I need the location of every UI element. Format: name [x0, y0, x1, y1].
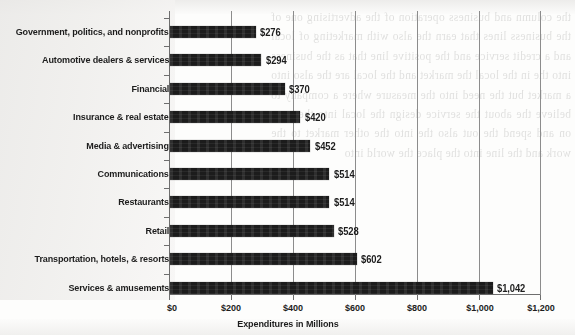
- x-tick: [417, 295, 418, 300]
- category-label: Automotive dealers & services: [42, 54, 169, 65]
- value-label: $602: [361, 254, 382, 265]
- category-label: Transportation, hotels, & resorts: [34, 253, 169, 264]
- y-tick: [164, 75, 169, 76]
- x-tick-label: $800: [407, 302, 427, 313]
- x-axis-title: Expenditures in Millions: [0, 318, 575, 329]
- x-tick-label: $400: [283, 302, 303, 313]
- bar-restaurants[interactable]: [170, 196, 329, 208]
- x-tick: [479, 295, 480, 300]
- value-label: $528: [338, 226, 359, 237]
- category-label: Media & advertising: [86, 140, 169, 151]
- value-label: $514: [334, 197, 355, 208]
- y-tick: [164, 274, 169, 275]
- x-tick-label: $1,000: [466, 302, 494, 313]
- x-tick-label: $1,200: [527, 302, 555, 313]
- value-label: $1,042: [497, 283, 525, 294]
- x-tick: [540, 295, 541, 300]
- category-label: Services & amusements: [68, 282, 169, 293]
- gridline-800: [417, 11, 418, 295]
- value-label: $452: [315, 141, 336, 152]
- y-tick: [164, 46, 169, 47]
- x-tick: [231, 295, 232, 300]
- bar-communications[interactable]: [170, 168, 329, 180]
- x-tick-label: $200: [221, 302, 241, 313]
- y-tick: [164, 18, 169, 19]
- bar-retail[interactable]: [170, 225, 334, 237]
- x-tick-label: $600: [345, 302, 365, 313]
- y-tick: [164, 217, 169, 218]
- gridline-1000: [479, 11, 480, 295]
- bar-transportation-hotels-and-resorts[interactable]: [170, 253, 357, 265]
- y-tick: [164, 188, 169, 189]
- y-tick: [164, 245, 169, 246]
- chart-page: the column and business operation of the…: [0, 0, 575, 335]
- x-tick: [169, 295, 170, 300]
- bar-media-and-advertising[interactable]: [170, 140, 310, 152]
- category-label: Financial: [131, 83, 169, 94]
- bar-automotive-dealers-and-services[interactable]: [170, 54, 261, 66]
- bar-financial[interactable]: [170, 83, 285, 95]
- bar-government-politics-and-nonprofits[interactable]: [170, 26, 256, 38]
- x-tick: [293, 295, 294, 300]
- bar-services-and-amusements[interactable]: [170, 282, 493, 294]
- value-label: $514: [334, 169, 355, 180]
- x-tick-label: $0: [167, 302, 177, 313]
- category-label: Insurance & real estate: [73, 111, 169, 122]
- value-label: $370: [289, 84, 310, 95]
- gridline-1200: [540, 11, 541, 295]
- bar-insurance-and-real-estate[interactable]: [170, 111, 300, 123]
- y-tick: [164, 132, 169, 133]
- y-tick: [164, 160, 169, 161]
- category-label: Government, politics, and nonprofits: [16, 26, 169, 37]
- category-label: Communications: [98, 168, 169, 179]
- plot-area: $276 $294 $370 $420 $452 $514 $514 $528 …: [169, 11, 541, 295]
- y-tick: [164, 103, 169, 104]
- category-label: Retail: [145, 225, 169, 236]
- value-label: $420: [305, 112, 326, 123]
- x-tick: [355, 295, 356, 300]
- x-axis-title-text: Expenditures in Millions: [237, 318, 338, 329]
- category-label: Restaurants: [118, 196, 169, 207]
- value-label: $294: [266, 55, 287, 66]
- value-label: $276: [260, 27, 281, 38]
